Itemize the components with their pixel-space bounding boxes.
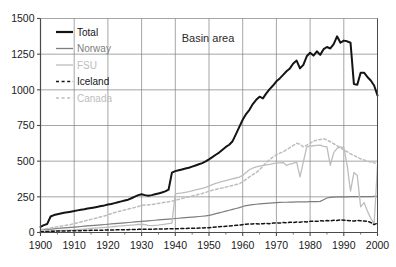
x-tick-label: 1960	[231, 239, 255, 251]
legend-label-fsu: FSU	[77, 60, 97, 71]
legend-label-iceland: Iceland	[77, 76, 109, 87]
x-tick-label: 2000	[366, 239, 390, 251]
x-tick-label: 1920	[96, 239, 120, 251]
y-tick-label: 750	[17, 119, 35, 131]
chart-legend: TotalNorwayFSUIcelandCanada	[56, 27, 112, 104]
chart-title-text: Basin area	[182, 32, 235, 44]
legend-label-canada: Canada	[77, 93, 112, 104]
x-tick-label: 1930	[130, 239, 154, 251]
chart-container: 0250500750100012501500190019101920193019…	[0, 0, 396, 267]
chart-title: Basin area	[182, 32, 235, 44]
x-tick-label: 1990	[332, 239, 356, 251]
y-tick-label: 1500	[11, 12, 35, 24]
legend-label-norway: Norway	[77, 43, 111, 54]
x-tick-label: 1980	[298, 239, 322, 251]
y-tick-label: 0	[29, 226, 35, 238]
x-tick-label: 1950	[197, 239, 221, 251]
legend-label-total: Total	[77, 27, 98, 38]
y-tick-label: 250	[17, 191, 35, 203]
x-tick-label: 1940	[164, 239, 188, 251]
y-tick-label: 500	[17, 155, 35, 167]
y-tick-label: 1000	[11, 84, 35, 96]
x-tick-label: 1910	[63, 239, 87, 251]
y-tick-label: 1250	[11, 48, 35, 60]
x-tick-label: 1970	[265, 239, 289, 251]
x-tick-label: 1900	[29, 239, 53, 251]
basin-area-line-chart: 0250500750100012501500190019101920193019…	[0, 0, 396, 267]
